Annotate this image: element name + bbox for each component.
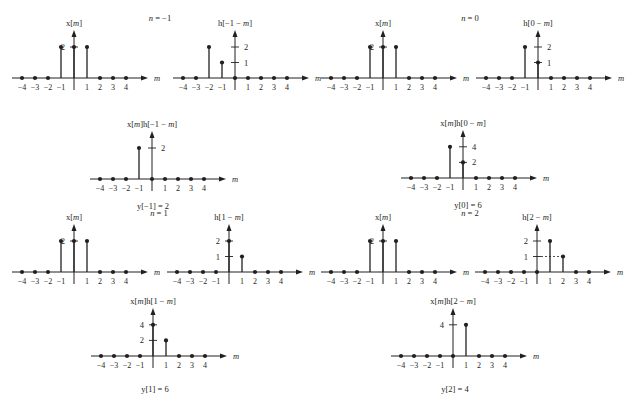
arrow-right-icon [605, 76, 612, 81]
panel-title: x[m] [375, 18, 391, 28]
x-tick-label: 3 [490, 361, 494, 370]
sample-dot [164, 338, 168, 342]
x-tick-label: 2 [176, 184, 180, 193]
x-tick-label: 1 [246, 83, 250, 92]
sample-dot [409, 176, 413, 180]
sample-dot [394, 45, 398, 49]
sample-dot [574, 270, 578, 274]
x-tick-label: 3 [266, 277, 270, 286]
sample-dot [587, 270, 591, 274]
arrow-right-icon [141, 270, 148, 275]
arrow-up-icon [381, 224, 386, 231]
sample-dot [20, 270, 24, 274]
sample-dot [503, 354, 507, 358]
sample-dot [562, 76, 566, 80]
sample-dot [190, 354, 194, 358]
axis-variable: m [463, 73, 469, 83]
y-tick-label: 2 [140, 335, 144, 345]
panel-title: x[m]h[−1 − m] [127, 119, 177, 129]
sample-dot [59, 239, 63, 243]
y-tick-label: 1 [244, 58, 248, 68]
x-tick-label: −1 [57, 83, 66, 92]
sample-dot [509, 270, 513, 274]
h-panel: mh[0 − m]12−4−3−2−11234 [476, 18, 624, 92]
sample-dot [72, 239, 76, 243]
sample-dot [194, 76, 198, 80]
x-tick-label: −4 [179, 83, 188, 92]
axis-variable: m [617, 267, 623, 277]
x-tick-label: −2 [44, 83, 53, 92]
sample-dot [124, 177, 128, 181]
sample-dot [355, 76, 359, 80]
sample-dot [477, 354, 481, 358]
sample-dot [420, 270, 424, 274]
sample-dot [189, 177, 193, 181]
x-tick-label: −1 [366, 83, 375, 92]
sample-dot [111, 76, 115, 80]
arrow-right-icon [220, 354, 227, 359]
x-tick-label: −4 [18, 83, 27, 92]
arrow-up-icon [535, 224, 540, 231]
sample-dot [523, 45, 527, 49]
sample-dot [399, 354, 403, 358]
x-tick-label: −2 [205, 83, 214, 92]
x-tick-label: 4 [588, 83, 592, 92]
arrow-up-icon [150, 131, 155, 138]
x-tick-label: −2 [508, 83, 517, 92]
x-tick-label: 1 [548, 277, 552, 286]
panel-title: h[2 − m] [522, 212, 552, 222]
x-tick-label: 4 [124, 277, 128, 286]
x-tick-label: −3 [494, 277, 503, 286]
sample-dot [214, 270, 218, 274]
sample-dot [381, 239, 385, 243]
sample-dot [549, 76, 553, 80]
axis-variable: m [618, 73, 624, 83]
arrow-right-icon [296, 270, 303, 275]
sample-dot [535, 270, 539, 274]
result-label: y[2] = 4 [441, 384, 469, 394]
sample-dot [111, 177, 115, 181]
y-tick-label: 4 [140, 320, 145, 330]
sample-dot [20, 76, 24, 80]
sample-dot [175, 270, 179, 274]
sample-dot [253, 270, 257, 274]
x-tick-label: 4 [285, 83, 289, 92]
x-tick-label: 2 [561, 277, 565, 286]
sample-dot [368, 239, 372, 243]
sample-dot [548, 239, 552, 243]
product-panel: mx[m]h[2 − m]4−4−3−2−11234 [391, 296, 539, 370]
sample-dot [207, 45, 211, 49]
x-tick-label: −2 [122, 184, 131, 193]
sample-dot [98, 177, 102, 181]
panel-title: x[m] [66, 18, 82, 28]
sample-dot [497, 76, 501, 80]
x-tick-label: −4 [97, 361, 106, 370]
sample-dot [448, 145, 452, 149]
x-tick-label: 2 [487, 183, 491, 192]
x-tick-label: −3 [340, 83, 349, 92]
sample-dot [72, 45, 76, 49]
sample-dot [259, 76, 263, 80]
x-tick-label: 4 [433, 83, 437, 92]
x-tick-label: −3 [109, 184, 118, 193]
x-tick-label: −1 [366, 277, 375, 286]
arrow-up-icon [227, 224, 232, 231]
x-tick-label: 2 [98, 277, 102, 286]
sample-dot [496, 270, 500, 274]
sample-dot [412, 354, 416, 358]
x-tick-label: −2 [199, 277, 208, 286]
x-tick-label: 4 [587, 277, 591, 286]
sample-dot [111, 270, 115, 274]
axis-variable: m [309, 267, 315, 277]
x-tick-label: 1 [163, 184, 167, 193]
sample-dot [33, 76, 37, 80]
x-tick-label: −1 [521, 83, 530, 92]
x-tick-label: 1 [464, 361, 468, 370]
x-tick-label: −2 [507, 277, 516, 286]
x-tick-label: 3 [420, 277, 424, 286]
x-tick-label: −2 [123, 361, 132, 370]
n-label: n = 2 [461, 208, 479, 218]
x-tick-label: −2 [433, 183, 442, 192]
sample-dot [266, 270, 270, 274]
x-tick-label: 1 [394, 277, 398, 286]
